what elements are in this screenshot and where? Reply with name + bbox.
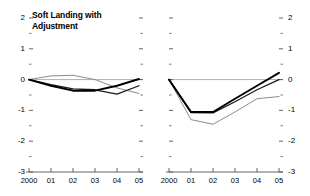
y-tick-label: -1 — [18, 106, 25, 114]
plot-area-harder-landing — [155, 0, 310, 196]
data-line-series-black-thin — [29, 80, 139, 94]
x-tick-label: 2000 — [21, 177, 38, 185]
y-tick-label: 2 — [21, 14, 25, 22]
x-tick-label: 04 — [113, 177, 121, 185]
y-tick-label: -3 — [18, 168, 25, 176]
data-line-series-gray-lower — [169, 80, 279, 125]
y-tick-label: 2 — [288, 14, 292, 22]
data-line-series-black-thick — [169, 73, 279, 112]
x-tick-label: 03 — [231, 177, 239, 185]
y-tick-label: -1 — [288, 106, 295, 114]
x-tick-label: 02 — [69, 177, 77, 185]
x-tick-label: 05 — [135, 177, 143, 185]
panel-harder-landing: Harder Landing 20000102030405210-1-2-3 — [155, 0, 310, 196]
y-tick-label: 0 — [288, 76, 292, 84]
y-tick-label: 1 — [288, 45, 292, 53]
y-tick-label: -2 — [288, 137, 295, 145]
y-tick-label: 1 — [21, 45, 25, 53]
x-tick-label: 04 — [253, 177, 261, 185]
panel-soft-landing: Soft Landing with Adjustment 20000102030… — [0, 0, 155, 196]
x-tick-label: 01 — [187, 177, 195, 185]
x-tick-label: 03 — [91, 177, 99, 185]
data-line-series-black-thin — [169, 80, 279, 113]
chart-figure: Soft Landing with Adjustment 20000102030… — [0, 0, 310, 196]
y-tick-label: -2 — [18, 137, 25, 145]
y-tick-label: 0 — [21, 76, 25, 84]
y-tick-label: -3 — [288, 168, 295, 176]
x-tick-label: 2000 — [161, 177, 178, 185]
x-tick-label: 02 — [209, 177, 217, 185]
x-tick-label: 01 — [47, 177, 55, 185]
x-tick-label: 05 — [275, 177, 283, 185]
